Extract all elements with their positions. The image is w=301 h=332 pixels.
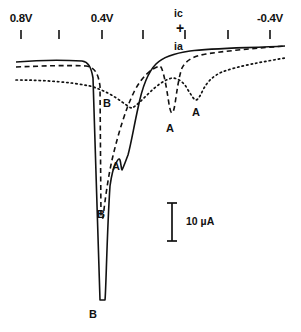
- curve-group: [16, 46, 285, 300]
- axis-label-2: -0.4V: [254, 12, 286, 24]
- axis-label-1: 0.4V: [86, 12, 118, 24]
- solid-curve: [16, 46, 285, 300]
- dotted-curve: [16, 58, 285, 108]
- plot-canvas: [0, 0, 301, 332]
- axis-ticks: [21, 30, 270, 39]
- peak-label-a-1: A: [112, 160, 120, 172]
- polarity-plus-icon: +: [176, 21, 184, 35]
- scale-bar-group: [167, 203, 177, 241]
- peak-label-b-2: B: [97, 208, 105, 220]
- peak-label-a-4: A: [192, 106, 200, 118]
- axis-label-0: 0.8V: [5, 12, 37, 24]
- anodic-current-label: ia: [174, 40, 183, 52]
- voltammogram-figure: 0.8V 0.4V -0.4V ic + ia 10 µA BABAAB: [0, 0, 301, 332]
- peak-label-b-0: B: [103, 97, 111, 109]
- cathodic-current-label: ic: [174, 7, 183, 19]
- peak-label-a-3: A: [166, 122, 174, 134]
- peak-label-b-5: B: [89, 308, 97, 320]
- scale-bar-label: 10 µA: [186, 215, 214, 227]
